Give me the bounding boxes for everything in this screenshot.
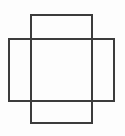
tall-rectangle [31,15,92,123]
figure-canvas [0,0,125,136]
wide-rectangle [9,39,114,101]
overlapping-rectangles-diagram [0,0,125,136]
